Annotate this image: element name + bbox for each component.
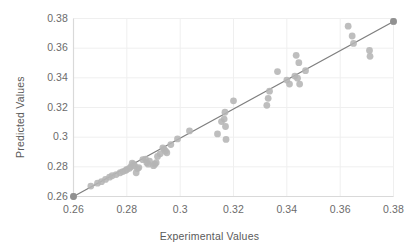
scatter-chart: 0.260.280.30.320.340.360.38 0.260.280.30… (0, 0, 419, 252)
y-tick-label: 0.36 (28, 41, 68, 53)
data-point (349, 33, 356, 40)
data-point (221, 116, 228, 123)
data-point (167, 141, 174, 148)
data-point (296, 81, 303, 88)
y-tick-label: 0.38 (28, 12, 68, 24)
data-point (135, 164, 142, 171)
x-tick-label: 0.26 (49, 203, 99, 215)
x-tick-label: 0.28 (102, 203, 152, 215)
data-point (350, 40, 357, 47)
y-tick-label: 0.3 (28, 130, 68, 142)
data-point (174, 136, 181, 143)
data-point (153, 159, 160, 166)
data-point (293, 52, 300, 59)
trend-line-start-dot (70, 193, 77, 200)
y-tick-label: 0.28 (28, 160, 68, 172)
y-tick-label: 0.34 (28, 71, 68, 83)
data-point (163, 149, 170, 156)
y-tick-label: 0.26 (28, 190, 68, 202)
y-axis-title-text: Predicted Values (14, 76, 26, 158)
data-point (265, 95, 272, 102)
data-point (214, 131, 221, 138)
data-point (263, 102, 270, 109)
data-point (295, 59, 302, 66)
data-point (266, 88, 273, 95)
data-point (286, 81, 293, 88)
data-point (186, 128, 193, 135)
data-point (366, 47, 373, 54)
data-point (345, 23, 352, 30)
data-point (367, 53, 374, 60)
data-point (223, 136, 230, 143)
x-axis-title: Experimental Values (0, 230, 419, 242)
data-point (222, 109, 229, 116)
x-tick-label: 0.34 (262, 203, 312, 215)
data-point (230, 97, 237, 104)
data-point (294, 75, 301, 82)
x-tick-label: 0.36 (315, 203, 365, 215)
x-tick-label: 0.3 (155, 203, 205, 215)
data-point (302, 67, 309, 74)
x-tick-label: 0.32 (209, 203, 259, 215)
data-point (87, 183, 94, 190)
x-tick-label: 0.38 (369, 203, 419, 215)
y-tick-label: 0.32 (28, 101, 68, 113)
data-point (274, 68, 281, 75)
trend-line-end-dot (390, 18, 397, 25)
data-point (222, 123, 229, 130)
